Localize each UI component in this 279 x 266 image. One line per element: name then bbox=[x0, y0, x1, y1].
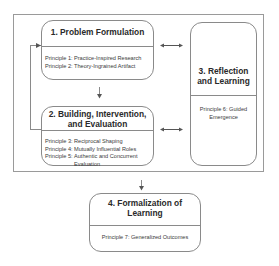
stage-2-title-line-2: and Evaluation bbox=[42, 120, 153, 130]
stage-2-divider bbox=[42, 130, 153, 131]
stage-4-title: 4. Formalization of Learning bbox=[90, 199, 200, 218]
stage-1-title: 1. Problem Formulation bbox=[42, 28, 153, 38]
stage-1-principles: Principle 1: Practice-Inspired Research … bbox=[45, 55, 151, 70]
principle-5: Principle 5: Authentic and Concurrent Ev… bbox=[45, 153, 151, 168]
principle-label: Principle 3: bbox=[45, 138, 74, 146]
principle-6-line-2: Emergence bbox=[191, 114, 256, 122]
principle-4: Principle 4: Mutually Influential Roles bbox=[45, 146, 151, 154]
principle-6-line-1: Principle 6: Guided bbox=[191, 106, 256, 114]
principle-1: Principle 1: Practice-Inspired Research bbox=[45, 55, 151, 63]
principle-text: Practice-Inspired Research bbox=[74, 55, 141, 63]
principle-text: Mutually Influential Roles bbox=[74, 146, 136, 154]
stage-3-principles: Principle 6: Guided Emergence bbox=[191, 106, 256, 121]
arrow-down-icon bbox=[139, 186, 145, 191]
bidirectional-arrow-1-3-icon bbox=[160, 42, 183, 49]
stage-4-principles: Principle 7: Generalized Outcomes bbox=[90, 234, 200, 242]
principle-label: Principle 4: bbox=[45, 146, 74, 154]
principle-3: Principle 3: Reciprocal Shaping bbox=[45, 138, 151, 146]
stage-2-building-intervention-evaluation: 2. Building, Intervention, and Evaluatio… bbox=[41, 106, 154, 166]
stage-4-formalization-of-learning: 4. Formalization of Learning Principle 7… bbox=[89, 193, 201, 252]
principle-7: Principle 7: Generalized Outcomes bbox=[90, 234, 200, 242]
stage-4-divider bbox=[90, 225, 200, 226]
stage-3-title: 3. Reflection and Learning bbox=[191, 67, 256, 86]
principle-label: Principle 1: bbox=[45, 55, 74, 63]
stage-3-divider bbox=[191, 95, 256, 96]
stage-1-divider bbox=[42, 46, 153, 47]
principle-2: Principle 2: Theory-Ingrained Artifact bbox=[45, 63, 151, 71]
principle-text: Theory-Ingrained Artifact bbox=[74, 63, 135, 71]
stage-4-title-line-2: Learning bbox=[90, 209, 200, 219]
stage-2-title: 2. Building, Intervention, and Evaluatio… bbox=[42, 110, 153, 129]
principle-label: Principle 2: bbox=[45, 63, 74, 71]
stage-3-title-line-2: and Learning bbox=[191, 77, 256, 87]
stage-1-problem-formulation: 1. Problem Formulation Principle 1: Prac… bbox=[41, 20, 154, 80]
arrow-down-icon bbox=[97, 94, 103, 99]
principle-text: Reciprocal Shaping bbox=[74, 138, 123, 146]
feedback-loop-vertical bbox=[30, 45, 31, 130]
principle-label: Principle 5: bbox=[45, 153, 74, 168]
stage-3-reflection-and-learning: 3. Reflection and Learning Principle 6: … bbox=[190, 22, 257, 166]
bidirectional-arrow-2-3-icon bbox=[160, 126, 183, 133]
stage-2-principles: Principle 3: Reciprocal Shaping Principl… bbox=[45, 138, 151, 168]
principle-text: Authentic and Concurrent Evaluation bbox=[74, 153, 138, 168]
